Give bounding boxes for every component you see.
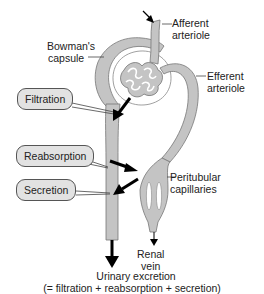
efferent-arteriole-line2: arteriole — [207, 82, 245, 94]
peritubular-capillaries-line2: capillaries — [170, 183, 221, 195]
renal-vein-arrow — [150, 232, 158, 246]
efferent-arteriole-line1: Efferent — [207, 70, 245, 82]
urinary-excretion-caption: Urinary excretion (= filtration + reabso… — [0, 270, 264, 294]
urinary-excretion-title: Urinary excretion — [0, 270, 264, 282]
urinary-excretion-formula: (= filtration + reabsorption + secretion… — [0, 282, 264, 294]
afferent-arteriole-line1: Afferent — [172, 17, 210, 29]
peritubular-capillaries-label: Peritubular capillaries — [170, 171, 221, 195]
peritubular-capillaries-vessel — [140, 158, 170, 232]
secretion-callout: Secretion — [16, 179, 76, 201]
afferent-arteriole-line2: arteriole — [172, 29, 210, 41]
renal-vein-line1: Renal — [137, 248, 164, 260]
filtration-callout: Filtration — [17, 88, 73, 110]
afferent-arteriole-vessel — [150, 20, 160, 64]
efferent-arteriole-label: Efferent arteriole — [207, 70, 245, 94]
bowmans-capsule-label: Bowman's capsule — [47, 40, 95, 64]
urinary-excretion-arrow — [105, 240, 119, 268]
bowmans-capsule-line2: capsule — [47, 52, 95, 64]
reabsorption-callout: Reabsorption — [16, 145, 94, 167]
bowmans-capsule-line1: Bowman's — [47, 40, 95, 52]
afferent-inflow-arrow — [143, 11, 154, 23]
peritubular-capillaries-line1: Peritubular — [170, 171, 221, 183]
afferent-arteriole-label: Afferent arteriole — [172, 17, 210, 41]
renal-vein-label: Renal vein — [137, 248, 164, 272]
